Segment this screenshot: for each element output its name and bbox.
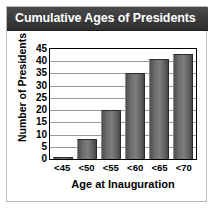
- y-tick-label: 20: [36, 106, 47, 114]
- bar[interactable]: [77, 139, 98, 159]
- x-tick-label: <50: [74, 162, 98, 176]
- bar-slot: [123, 49, 147, 159]
- bar[interactable]: [101, 110, 122, 159]
- y-tick-label: 30: [36, 82, 47, 90]
- x-axis-ticks: <45<50<55<60<65<70: [49, 162, 197, 176]
- y-tick-label: 15: [36, 118, 47, 126]
- bar-slot: [75, 49, 99, 159]
- bar-series: [50, 49, 196, 159]
- bar-slot: [99, 49, 123, 159]
- x-tick-label: <65: [147, 162, 171, 176]
- bar-slot: [147, 49, 171, 159]
- y-axis-ticks: 454035302520151050: [25, 48, 47, 160]
- y-tick-label: 10: [36, 131, 47, 139]
- bar[interactable]: [53, 157, 74, 159]
- y-tick-label: 5: [41, 143, 47, 151]
- bar[interactable]: [173, 54, 194, 159]
- bar[interactable]: [125, 73, 146, 159]
- y-tick-label: 0: [41, 155, 47, 163]
- y-tick-label: 45: [36, 45, 47, 53]
- bar-slot: [51, 49, 75, 159]
- chart-title: Cumulative Ages of Presidents: [15, 11, 196, 25]
- x-tick-label: <45: [50, 162, 74, 176]
- y-tick-label: 40: [36, 57, 47, 65]
- x-tick-label: <55: [99, 162, 123, 176]
- bar-slot: [171, 49, 195, 159]
- x-tick-label: <70: [172, 162, 196, 176]
- y-tick-label: 35: [36, 69, 47, 77]
- y-tick-label: 25: [36, 94, 47, 102]
- x-tick-label: <60: [123, 162, 147, 176]
- x-axis-label: Age at Inauguration: [49, 178, 197, 190]
- chart-figure: Cumulative Ages of Presidents Number of …: [6, 6, 207, 202]
- chart-title-bar: Cumulative Ages of Presidents: [7, 7, 208, 31]
- plot-frame: [49, 48, 197, 160]
- chart-plot-area: Number of Presidents 454035302520151050 …: [7, 31, 208, 202]
- bar[interactable]: [149, 59, 170, 159]
